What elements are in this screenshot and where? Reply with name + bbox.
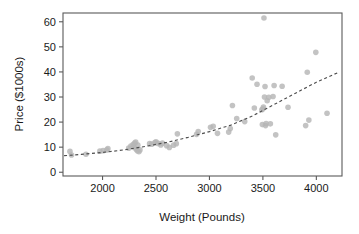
x-tick-label: 2500 — [144, 182, 168, 194]
data-point — [304, 69, 310, 75]
data-point — [324, 111, 330, 117]
y-tick-label: 0 — [50, 166, 56, 178]
data-point — [254, 81, 260, 87]
data-point — [271, 83, 277, 89]
data-point — [262, 84, 268, 90]
data-point — [268, 121, 274, 127]
data-point — [303, 123, 309, 129]
data-point — [234, 116, 240, 122]
data-point — [252, 105, 258, 111]
data-point — [175, 131, 181, 137]
data-point — [270, 94, 276, 100]
data-point — [195, 129, 201, 135]
x-axis-tick-labels: 20002500300035004000 — [90, 182, 328, 194]
data-point — [215, 131, 221, 137]
y-tick-label: 50 — [44, 41, 56, 53]
scatter-plot-svg: 0102030405060 20002500300035004000 Weigh… — [0, 0, 359, 234]
data-point — [279, 83, 285, 89]
x-tick-label: 3000 — [197, 182, 221, 194]
x-tick-label: 2000 — [90, 182, 114, 194]
data-point — [249, 75, 255, 81]
data-point — [261, 15, 267, 21]
data-point — [174, 141, 180, 147]
x-tick-label: 4000 — [304, 182, 328, 194]
data-point — [313, 50, 319, 56]
y-tick-label: 20 — [44, 116, 56, 128]
data-point — [105, 146, 111, 152]
x-tick-label: 3500 — [251, 182, 275, 194]
data-point — [273, 132, 279, 138]
x-axis-title: Weight (Pounds) — [159, 211, 245, 223]
y-axis-title: Price ($1000s) — [13, 56, 25, 131]
data-point-group — [67, 15, 330, 158]
y-axis-tick-labels: 0102030405060 — [44, 16, 56, 178]
y-tick-label: 40 — [44, 66, 56, 78]
y-tick-label: 60 — [44, 16, 56, 28]
y-tick-label: 30 — [44, 91, 56, 103]
data-point — [306, 117, 312, 123]
data-point — [210, 124, 216, 130]
x-axis-tick-marks — [103, 176, 317, 180]
y-axis-tick-marks — [59, 22, 63, 172]
chart-figure: 0102030405060 20002500300035004000 Weigh… — [0, 0, 359, 234]
data-point — [285, 104, 291, 110]
data-point — [227, 126, 233, 132]
data-point — [230, 103, 236, 109]
trend-line — [64, 73, 338, 156]
y-tick-label: 10 — [44, 141, 56, 153]
